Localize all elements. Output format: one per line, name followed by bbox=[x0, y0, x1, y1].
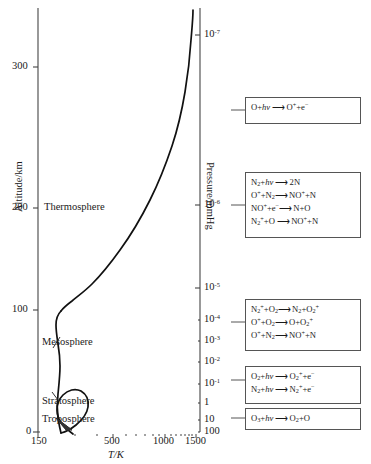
altitude-axis-title: Altitude/km bbox=[14, 161, 25, 212]
reaction-line: O++N2⟶ NO++N bbox=[251, 189, 355, 202]
pressure-tick-label-10: 10 bbox=[204, 414, 215, 425]
reaction-line: N2+hv ⟶ N2++e− bbox=[251, 383, 355, 396]
reaction-line: NO++e−⟶ N+O bbox=[251, 202, 355, 214]
reaction-line: O+hv ⟶ O++e− bbox=[251, 101, 355, 113]
temperature-tick-label-1500: 1500 bbox=[185, 436, 206, 447]
temperature-tick-label-150: 150 bbox=[31, 436, 47, 447]
layer-label-thermosphere: Thermosphere bbox=[44, 202, 105, 213]
profile-thermosphere bbox=[61, 10, 193, 311]
altitude-tick-label-100: 100 bbox=[12, 304, 28, 315]
pressure-tick-label-1e-3: 10-3 bbox=[204, 335, 220, 346]
layer-label-mesosphere: Mesosphere bbox=[42, 337, 93, 348]
pressure-tick-label-1e-4: 10-4 bbox=[204, 314, 220, 325]
pressure-tick-label-1e-1: 10-1 bbox=[204, 378, 220, 389]
layer-label-stratosphere: Stratosphere bbox=[42, 396, 95, 407]
reaction-box-stratosphere-photoionization: O2+hv ⟶ O2++e− N2+hv ⟶ N2++e− bbox=[245, 366, 361, 404]
reaction-line: O3+hv ⟶ O2+O bbox=[251, 412, 355, 425]
figure-canvas: 300 200 100 0 Altitude/km 150 500 1000 1… bbox=[0, 0, 371, 464]
altitude-tick-label-300: 300 bbox=[12, 61, 28, 72]
reaction-line: O++N2⟶ NO++N bbox=[251, 329, 355, 342]
reaction-box-thermosphere-nitrogen-chemistry: N2+hv ⟶ 2N O++N2⟶ NO++N NO++e−⟶ N+O N2++… bbox=[245, 172, 361, 238]
reaction-line: N2++O2⟶ N2+O2+ bbox=[251, 303, 355, 316]
pressure-tick-label-1: 1 bbox=[204, 397, 209, 408]
temperature-tick-label-1000: 1000 bbox=[153, 436, 174, 447]
reaction-box-ozone-photolysis: O3+hv ⟶ O2+O bbox=[245, 408, 361, 430]
pressure-tick-label-100: 100 bbox=[204, 426, 220, 437]
temperature-tick-label-500: 500 bbox=[104, 436, 120, 447]
reaction-line: O2+hv ⟶ O2++e− bbox=[251, 370, 355, 383]
reaction-line: N2++O ⟶ NO++N bbox=[251, 215, 355, 228]
layer-label-troposphere: Troposphere bbox=[42, 414, 95, 425]
temperature-axis-title: T/K bbox=[108, 450, 124, 461]
reaction-line: O++O2⟶ O+O2+ bbox=[251, 316, 355, 329]
pressure-tick-label-1e-7: 10-7 bbox=[204, 29, 220, 40]
pressure-tick-label-1e-5: 10-5 bbox=[204, 282, 220, 293]
reaction-box-mesosphere-charge-transfer: N2++O2⟶ N2+O2+ O++O2⟶ O+O2+ O++N2⟶ NO++N bbox=[245, 299, 361, 351]
reaction-line: N2+hv ⟶ 2N bbox=[251, 176, 355, 189]
pressure-tick-label-1e-2: 10-2 bbox=[204, 356, 220, 367]
reaction-box-ionosphere-o-ionization: O+hv ⟶ O++e− bbox=[245, 97, 361, 124]
pressure-axis-title: Pressure/mmHg bbox=[205, 162, 216, 230]
box-connectors bbox=[231, 110, 245, 418]
